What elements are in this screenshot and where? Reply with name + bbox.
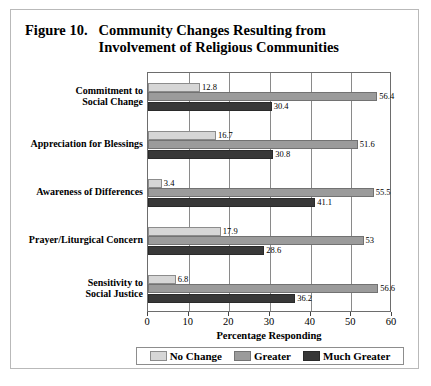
legend-label: No Change (170, 350, 222, 362)
bar-row: 56.6 (148, 284, 390, 293)
x-tick-label: 10 (182, 316, 193, 327)
bar-no-change[interactable] (148, 131, 216, 140)
category-label: Sensitivity toSocial Justice (15, 277, 147, 300)
category-label-line: Awareness of Differences (15, 186, 143, 198)
bar-row: 6.8 (148, 275, 390, 284)
plot-area: 12.856.430.416.751.630.83.455.541.117.95… (147, 72, 391, 312)
bar-row: 12.8 (148, 83, 390, 92)
bar-value-label: 28.6 (264, 243, 281, 257)
legend-item[interactable]: Greater (234, 350, 291, 362)
bar-row: 17.9 (148, 227, 390, 236)
category-label: Appreciation for Blessings (15, 138, 147, 150)
bar-greater[interactable] (148, 284, 378, 293)
category-label-line: Prayer/Liturgical Concern (15, 234, 143, 246)
bar-greater[interactable] (148, 188, 374, 197)
bar-greater[interactable] (148, 92, 377, 101)
bar-row: 28.6 (148, 246, 390, 255)
category-label-line: Commitment to (15, 85, 143, 97)
x-axis-title: Percentage Responding (147, 330, 391, 341)
bar-much-greater[interactable] (148, 150, 273, 159)
bar-no-change[interactable] (148, 275, 176, 284)
figure-frame: Figure 10. Community Changes Resulting f… (10, 9, 419, 369)
bar-value-label: 30.8 (273, 147, 290, 161)
bar-much-greater[interactable] (148, 198, 315, 207)
x-tick-label: 0 (144, 316, 149, 327)
legend-label: Much Greater (323, 350, 390, 362)
bar-group: 6.856.636.2 (148, 275, 390, 305)
chart-legend: No ChangeGreaterMuch Greater (136, 347, 404, 365)
category-label-line: Sensitivity to (15, 277, 143, 289)
bar-much-greater[interactable] (148, 294, 295, 303)
category-axis-labels: Commitment toSocial ChangeAppreciation f… (11, 72, 147, 312)
bar-row: 41.1 (148, 198, 390, 207)
bar-row: 30.8 (148, 150, 390, 159)
bar-value-label: 36.2 (295, 291, 312, 305)
category-label-line: Appreciation for Blessings (15, 138, 143, 150)
legend-item[interactable]: Much Greater (303, 350, 390, 362)
bar-greater[interactable] (148, 236, 364, 245)
bar-greater[interactable] (148, 140, 358, 149)
x-tick-label: 30 (264, 316, 275, 327)
bar-group: 12.856.430.4 (148, 83, 390, 113)
bar-much-greater[interactable] (148, 102, 272, 111)
bar-no-change[interactable] (148, 179, 162, 188)
legend-item[interactable]: No Change (150, 350, 222, 362)
bar-row: 16.7 (148, 131, 390, 140)
category-label: Prayer/Liturgical Concern (15, 234, 147, 246)
bar-value-label: 41.1 (315, 195, 332, 209)
legend-swatch (234, 351, 251, 361)
x-tick-label: 50 (345, 316, 356, 327)
legend-swatch (303, 351, 320, 361)
bar-value-label: 30.4 (272, 99, 289, 113)
bar-no-change[interactable] (148, 227, 221, 236)
bar-row: 36.2 (148, 294, 390, 303)
x-tick-label: 20 (223, 316, 234, 327)
category-label: Awareness of Differences (15, 186, 147, 198)
bar-no-change[interactable] (148, 83, 200, 92)
x-tick-label: 60 (386, 316, 397, 327)
legend-swatch (150, 351, 167, 361)
bar-chart: Commitment toSocial ChangeAppreciation f… (11, 10, 420, 370)
legend-label: Greater (254, 350, 291, 362)
bar-group: 17.95328.6 (148, 227, 390, 257)
bar-much-greater[interactable] (148, 246, 264, 255)
bar-group: 3.455.541.1 (148, 179, 390, 209)
bar-row: 56.4 (148, 92, 390, 101)
x-tick-label: 40 (304, 316, 315, 327)
category-label: Commitment toSocial Change (15, 85, 147, 108)
bar-row: 3.4 (148, 179, 390, 188)
bar-row: 55.5 (148, 188, 390, 197)
category-label-line: Social Change (15, 96, 143, 108)
bar-row: 51.6 (148, 140, 390, 149)
category-label-line: Social Justice (15, 288, 143, 300)
x-axis-ticks: 0102030405060 (147, 312, 391, 328)
bar-row: 30.4 (148, 102, 390, 111)
bar-group: 16.751.630.8 (148, 131, 390, 161)
